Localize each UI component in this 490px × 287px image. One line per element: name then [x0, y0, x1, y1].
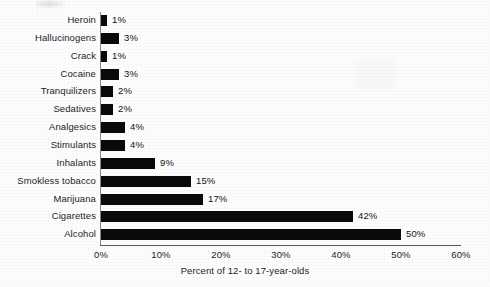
x-axis-title: Percent of 12- to 17-year-olds: [0, 265, 490, 276]
plot-area: Heroin1%Hallucinogens3%Crack1%Cocaine3%T…: [0, 0, 490, 287]
bar: [101, 122, 125, 133]
category-label: Hallucinogens: [35, 32, 96, 43]
bar: [101, 15, 107, 26]
bar-value-label: 17%: [208, 193, 227, 204]
bar-row: Inhalants9%: [0, 155, 490, 173]
bar-value-label: 3%: [124, 68, 138, 79]
bar: [101, 229, 401, 240]
bar-row: Hallucinogens3%: [0, 30, 490, 48]
category-label: Marijuana: [53, 193, 96, 204]
bar: [101, 69, 119, 80]
bar-value-label: 4%: [130, 121, 144, 132]
bar-value-label: 1%: [112, 14, 126, 25]
bar: [101, 33, 119, 44]
bar: [101, 158, 155, 169]
x-axis-tick-label: 10%: [151, 249, 170, 260]
category-label: Cocaine: [60, 68, 96, 79]
bar-row: Tranquilizers2%: [0, 83, 490, 101]
category-label: Analgesics: [49, 121, 96, 132]
bar: [101, 211, 353, 222]
bar-value-label: 42%: [358, 210, 377, 221]
category-label: Tranquilizers: [41, 85, 96, 96]
bar-row: Sedatives2%: [0, 101, 490, 119]
x-axis-tick-label: 40%: [331, 249, 350, 260]
bar: [101, 194, 203, 205]
category-label: Alcohol: [64, 228, 96, 239]
bar-value-label: 2%: [118, 85, 132, 96]
bar-row: Stimulants4%: [0, 137, 490, 155]
bar-row: Analgesics4%: [0, 119, 490, 137]
x-axis-tick-label: 30%: [271, 249, 290, 260]
category-label: Crack: [71, 50, 96, 61]
x-axis-tick-label: 50%: [391, 249, 410, 260]
bar-value-label: 4%: [130, 139, 144, 150]
category-label: Sedatives: [53, 103, 96, 114]
bar-row: Marijuana17%: [0, 191, 490, 209]
bar: [101, 140, 125, 151]
bar-row: Smokless tobacco15%: [0, 173, 490, 191]
bar-row: Cigarettes42%: [0, 208, 490, 226]
bar-value-label: 2%: [118, 103, 132, 114]
bar-value-label: 3%: [124, 32, 138, 43]
x-axis-line: [100, 245, 461, 246]
x-axis-tick-label: 0%: [94, 249, 108, 260]
bar-value-label: 15%: [196, 175, 215, 186]
x-axis-tick-label: 60%: [451, 249, 470, 260]
bar: [101, 176, 191, 187]
bar-row: Heroin1%: [0, 12, 490, 30]
bar: [101, 51, 107, 62]
x-axis-tick-label: 20%: [211, 249, 230, 260]
category-label: Smokless tobacco: [17, 175, 96, 186]
bar-row: Alcohol50%: [0, 226, 490, 244]
bar-row: Cocaine3%: [0, 66, 490, 84]
category-label: Heroin: [67, 14, 96, 25]
bar: [101, 104, 113, 115]
bar-value-label: 50%: [406, 228, 425, 239]
bar-value-label: 9%: [160, 157, 174, 168]
bar-value-label: 1%: [112, 50, 126, 61]
bar-row: Crack1%: [0, 48, 490, 66]
bar-chart: Heroin1%Hallucinogens3%Crack1%Cocaine3%T…: [0, 0, 490, 287]
category-label: Stimulants: [51, 139, 96, 150]
category-label: Inhalants: [57, 157, 96, 168]
bar: [101, 86, 113, 97]
category-label: Cigarettes: [52, 210, 96, 221]
